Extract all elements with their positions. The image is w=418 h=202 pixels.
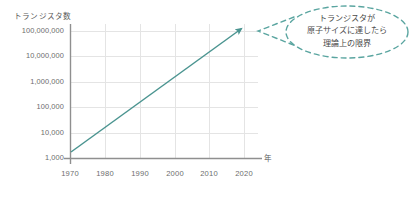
chart-graphics: [0, 0, 418, 202]
transistor-count-chart: トランジスタ数 年 100,000,000 10,000,000 1,000,0…: [0, 0, 418, 202]
callout-bubble: [258, 6, 408, 58]
vertical-gridlines: [106, 24, 245, 158]
horizontal-gridlines: [70, 32, 258, 134]
